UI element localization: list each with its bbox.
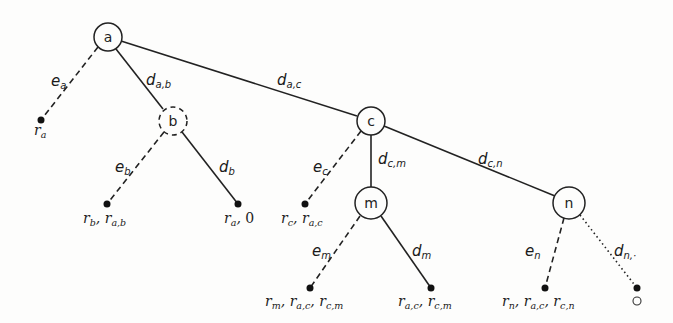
node-c-label: c (367, 113, 375, 129)
node-b-label: b (169, 113, 178, 129)
leaf-dot-empty (634, 285, 641, 292)
leaf-dot-rb (104, 201, 111, 208)
leaf-label-ra0: ra, 0 (224, 210, 254, 228)
leaf-dot-rc (302, 201, 309, 208)
edge-label-en: en (525, 242, 541, 261)
edge-label-dcm: dc,m (378, 150, 406, 169)
edge-label-dcn: dc,n (478, 150, 503, 169)
node-a-label: a (104, 29, 113, 45)
edge-label-eb: eb (115, 158, 131, 177)
edge-label-dm: dm (412, 242, 432, 261)
node-n-label: n (565, 195, 574, 211)
edge-label-ec: ec (313, 158, 328, 177)
node-m-label: m (364, 195, 378, 211)
edge-label-em: em (312, 242, 331, 261)
leaf-label-ra: ra (34, 122, 47, 140)
edge-label-dn: dn,· (614, 242, 636, 261)
edge-label-dac: da,c (277, 71, 302, 90)
edge-c-n (384, 126, 555, 196)
leaf-label-racm: ra,c, rc,m (398, 293, 452, 311)
edge-n-rn (545, 218, 564, 288)
leaf-dot-racm (428, 285, 435, 292)
edge-label-db: db (219, 158, 235, 177)
leaf-dot-rm (307, 285, 314, 292)
edge-a-ra (41, 47, 98, 120)
leaf-label-rn: rn, ra,c, rc,n (502, 293, 575, 311)
leaf-label-rb: rb, ra,b (83, 210, 126, 228)
leaf-label-rc: rc, ra,c (281, 210, 323, 228)
leaf-dot-rn (542, 285, 549, 292)
edge-label-dab: da,b (146, 71, 171, 90)
leaf-dot-ra0 (235, 201, 242, 208)
leaf-label-rm: rm, ra,c, rc,m (265, 293, 343, 311)
tree-diagram: a b c m n ea da,b da,c eb db ec dc,m dc,… (0, 0, 673, 323)
empty-set-icon (633, 297, 641, 305)
edge-label-ea: ea (51, 72, 66, 91)
